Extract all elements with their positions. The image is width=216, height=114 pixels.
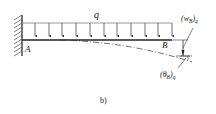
point-a-label: A — [24, 44, 31, 54]
load-label-q: q — [94, 9, 99, 20]
point-b-label: B — [162, 40, 168, 50]
deflection-label: (wB)q — [181, 14, 198, 24]
fixed-support-wall — [14, 15, 22, 56]
rotation-label: (θB)q — [160, 70, 176, 80]
distributed-load — [23, 23, 172, 36]
rotation-angle — [176, 56, 192, 68]
figure-caption: b) — [100, 96, 107, 105]
cantilever-beam-diagram: q A B (wB)q (θB)q b) — [0, 0, 216, 114]
deflection-curve — [60, 40, 192, 62]
deflection-dimension — [172, 28, 193, 56]
